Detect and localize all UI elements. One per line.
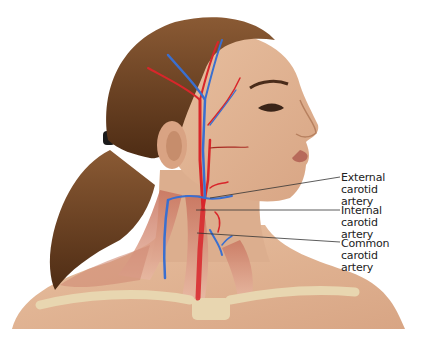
label-line2: artery [341,262,421,274]
label-line1: External carotid [341,172,421,196]
label-line1: Common carotid [341,238,421,262]
label-common-carotid-artery: Common carotid artery [341,238,421,274]
sternum [192,298,230,320]
label-internal-carotid-artery: Internal carotid artery [341,205,421,241]
label-external-carotid-artery: External carotid artery [341,172,421,208]
ear-inner [166,131,182,161]
anatomy-illustration [0,0,421,339]
label-line1: Internal carotid [341,205,421,229]
